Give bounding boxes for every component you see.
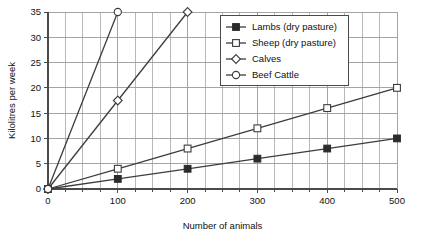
data-point-marker — [44, 185, 51, 192]
data-point-marker — [184, 165, 191, 172]
data-point-marker — [254, 155, 261, 162]
y-tick-label: 35 — [30, 6, 41, 17]
data-point-marker — [114, 175, 121, 182]
line-chart: 051015202530350100200300400500Number of … — [0, 0, 421, 233]
y-tick-label: 20 — [30, 82, 41, 93]
y-tick-label: 30 — [30, 32, 41, 43]
x-tick-label: 300 — [249, 195, 265, 206]
data-point-marker — [394, 135, 401, 142]
y-tick-label: 15 — [30, 108, 41, 119]
legend-item-3[interactable]: Beef Cattle — [226, 69, 299, 80]
legend-item-label: Sheep (dry pasture) — [252, 37, 336, 48]
y-tick-label: 25 — [30, 57, 41, 68]
legend-marker-filled-square-icon — [233, 24, 240, 31]
legend-marker-open-circle-icon — [232, 71, 239, 78]
x-tick-label: 0 — [45, 195, 50, 206]
x-tick-label: 100 — [110, 195, 126, 206]
y-tick-label: 5 — [36, 158, 41, 169]
x-tick-label: 400 — [319, 195, 335, 206]
data-point-marker — [394, 84, 401, 91]
y-tick-label: 0 — [36, 183, 41, 194]
legend: Lambs (dry pasture)Sheep (dry pasture)Ca… — [220, 15, 348, 85]
legend-item-label: Beef Cattle — [252, 69, 299, 80]
chart-container: 051015202530350100200300400500Number of … — [0, 0, 421, 233]
y-tick-label: 10 — [30, 133, 41, 144]
data-point-marker — [324, 145, 331, 152]
x-tick-label: 200 — [180, 195, 196, 206]
x-axis-title: Number of animals — [183, 220, 263, 231]
legend-item-label: Calves — [252, 53, 281, 64]
data-point-marker — [184, 145, 191, 152]
legend-marker-open-square-icon — [233, 40, 240, 47]
data-point-marker — [254, 125, 261, 132]
data-point-marker — [324, 105, 331, 112]
data-point-marker — [114, 165, 121, 172]
legend-item-label: Lambs (dry pasture) — [252, 21, 337, 32]
data-point-marker — [114, 8, 121, 15]
y-axis-title: Kilolitres per week — [6, 62, 17, 139]
x-tick-label: 500 — [389, 195, 405, 206]
